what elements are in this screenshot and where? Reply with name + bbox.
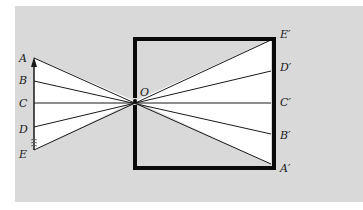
object-label-a: A xyxy=(18,52,27,65)
object-label-d: D xyxy=(18,123,28,136)
image-label-d-prime: D′ xyxy=(279,61,292,74)
pinhole-camera-diagram: O A B C D E E′ D′ C′ B′ A′ xyxy=(0,0,363,210)
pinhole-label: O xyxy=(140,86,149,99)
object-label-c: C xyxy=(19,97,28,110)
object-label-e: E xyxy=(18,148,27,161)
image-label-b-prime: B′ xyxy=(279,129,291,142)
pinhole xyxy=(133,99,137,103)
image-label-c-prime: C′ xyxy=(280,96,291,109)
image-label-e-prime: E′ xyxy=(279,28,291,41)
image-label-a-prime: A′ xyxy=(279,162,291,175)
object-label-b: B xyxy=(18,74,27,87)
